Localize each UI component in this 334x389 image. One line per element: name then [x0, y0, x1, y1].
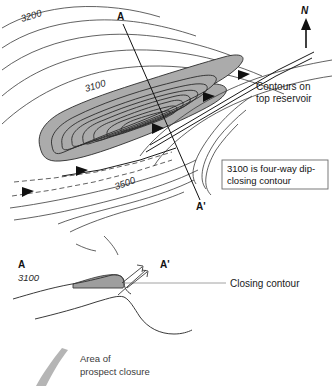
annotation-contours-line1: Contours on — [256, 81, 310, 92]
legend-line2: prospect closure — [80, 366, 150, 377]
section-label-a-prime: A' — [196, 201, 206, 212]
xs-label-a: A — [18, 259, 25, 270]
section-label-a: A — [117, 11, 124, 22]
annotation-contours-line2: top reservoir — [256, 93, 312, 104]
xs-datum-label-3100: 3100 — [18, 272, 40, 283]
legend-line1: Area of — [80, 353, 111, 364]
figure-canvas: A A' 3200 3100 3500 Contours on top rese… — [0, 0, 334, 389]
structure-map-figure: A A' 3200 3100 3500 Contours on top rese… — [0, 0, 334, 389]
callout-box-dip-closure: 3100 is four-way dip- closing contour — [222, 160, 328, 189]
north-arrow-label: N — [301, 5, 309, 16]
xs-label-a-prime: A' — [160, 259, 170, 270]
xs-closing-contour-label: Closing contour — [230, 278, 300, 289]
canvas-background — [0, 0, 334, 389]
callout-line1: 3100 is four-way dip- — [227, 163, 315, 174]
callout-line2: closing contour — [227, 175, 291, 186]
